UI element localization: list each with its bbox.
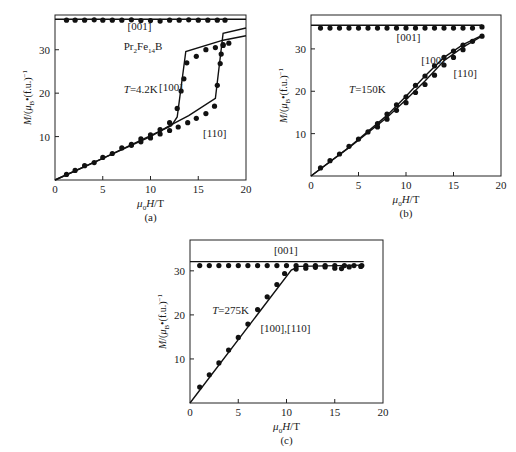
y-tick-label: 10 [39,131,51,143]
panel-caption: (b) [400,207,413,220]
data-point [148,135,153,140]
data-point [451,55,456,60]
data-point [221,43,226,48]
data-point [356,26,361,31]
x-tick-label: 20 [496,179,508,191]
data-point [432,73,437,78]
data-point [413,83,418,88]
data-point [167,128,172,133]
x-tick-label: 10 [281,406,293,418]
data-point [207,372,212,377]
data-point [323,264,328,269]
data-point [460,47,465,52]
data-point [394,108,399,113]
data-point [100,155,105,160]
x-axis-label: μ0H/T [392,193,420,208]
data-point [226,41,231,46]
data-point [413,26,418,31]
annotation: [001] [397,31,421,43]
figure-canvas: 05101520102030μ0H/T(a)M/(μB•(f.u.)−1Pr2F… [0,0,516,452]
data-point [194,116,199,121]
y-tick-label: 30 [295,43,307,55]
data-point [255,307,260,312]
annotation: Pr2Fe14B [124,40,163,55]
data-point [403,94,408,99]
data-point [245,263,250,268]
data-point [422,73,427,78]
panel-caption: (a) [144,211,157,224]
data-point [394,102,399,107]
data-point [274,263,279,268]
data-point [356,137,361,142]
y-tick-label: 20 [174,309,186,321]
x-tick-label: 5 [356,179,362,191]
data-point [226,348,231,353]
y-axis-label: M/(μB•(f.u.)−1 [277,67,292,124]
data-point [422,26,427,31]
x-axis-label: μ0H/T [272,420,300,435]
data-point [255,263,260,268]
data-point [197,385,202,390]
data-point [119,145,124,150]
x-tick-label: 5 [100,183,106,195]
data-point [375,124,380,129]
data-point [358,264,363,269]
chart-b: 05101520102030μ0H/T(b)M/(μB•(f.u.)−1T=15… [277,15,507,220]
data-point [158,131,163,136]
y-tick-label: 10 [174,353,186,365]
data-point [479,34,484,39]
y-tick-label: 30 [174,265,186,277]
data-point [347,264,352,269]
data-point [313,265,318,270]
y-tick-label: 10 [295,128,307,140]
x-tick-label: 15 [448,179,460,191]
annotation: [100] [421,54,445,66]
data-point [460,26,465,31]
data-point [451,26,456,31]
data-point [375,26,380,31]
x-tick-label: 10 [145,183,157,195]
x-axis-label: μ0H/T [136,197,164,212]
data-point [451,48,456,53]
data-point [265,294,270,299]
data-point [175,106,180,111]
plot-frame [55,15,246,180]
data-point [226,263,231,268]
data-point [167,120,172,125]
data-point [138,139,143,144]
data-point [196,18,201,23]
annotation: [100],[110] [260,322,310,334]
y-axis-label: M/(μB•(f.u.)−1 [21,69,36,126]
data-point [236,335,241,340]
data-point [365,129,370,134]
x-tick-label: 20 [378,406,390,418]
data-point [318,165,323,170]
data-point [327,26,332,31]
data-point [470,39,475,44]
data-point [222,18,227,23]
data-point [365,26,370,31]
data-point [245,322,250,327]
data-point [218,61,223,66]
data-point [470,26,475,31]
data-point [403,26,408,31]
data-point [185,120,190,125]
annotation: [100] [159,81,183,93]
data-point [177,18,182,23]
annotation: [110] [203,127,226,139]
x-tick-label: 5 [236,406,242,418]
data-point [64,172,69,177]
data-point [303,266,308,271]
x-tick-label: 10 [401,179,413,191]
data-point [64,18,69,23]
data-point [337,26,342,31]
curve--100-calc [55,36,246,180]
points--100-exp [64,41,232,177]
data-point [403,100,408,105]
data-point [184,60,189,65]
data-point [422,82,427,87]
data-point [92,160,97,165]
data-point [337,151,342,156]
x-tick-label: 15 [193,183,205,195]
data-point [100,18,105,23]
